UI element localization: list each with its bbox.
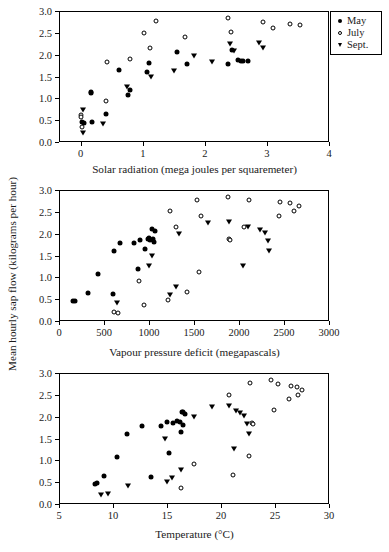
- figure-three-panel-scatter: Mean hourly sap flow (kilograms per hour…: [0, 0, 389, 552]
- x-tick-label: 1: [140, 148, 145, 159]
- y-tick: [55, 299, 59, 300]
- x-tick: [275, 504, 276, 508]
- y-tick-label: 3.0: [19, 368, 52, 379]
- y-tick-label: 1.0: [19, 455, 52, 466]
- x-tick: [194, 321, 195, 325]
- x-axis-label-temperature: Temperature (°C): [0, 528, 389, 540]
- x-axis-label-vapour-pressure-deficit: Vapour pressure deficit (megapascals): [0, 346, 389, 358]
- y-tick-label: 3.0: [19, 6, 52, 17]
- x-tick-label: 0: [78, 148, 83, 159]
- y-tick-label: 0.0: [19, 499, 52, 510]
- filled-circle-icon: [335, 19, 344, 23]
- x-tick: [284, 321, 285, 325]
- y-tick-label: 0.5: [19, 477, 52, 488]
- x-tick: [59, 504, 60, 508]
- y-tick: [55, 142, 59, 143]
- y-tick-label: 2.0: [19, 411, 52, 422]
- legend-item-sept: Sept.: [335, 39, 376, 51]
- legend-label: May: [347, 15, 366, 27]
- filled-triangle-down-icon: [335, 43, 344, 47]
- x-tick-label: 10: [108, 510, 119, 521]
- x-tick-label: 2000: [229, 327, 250, 338]
- legend-item-may: May: [335, 15, 376, 27]
- y-tick: [55, 395, 59, 396]
- x-tick: [329, 504, 330, 508]
- y-tick: [55, 190, 59, 191]
- x-tick: [329, 142, 330, 146]
- x-tick-label: 3000: [319, 327, 340, 338]
- y-tick: [55, 482, 59, 483]
- legend-label: Sept.: [347, 39, 368, 51]
- x-tick-label: 20: [216, 510, 227, 521]
- x-tick: [104, 321, 105, 325]
- y-axis-label-container: Mean hourly sap flow (kilograms per hour…: [0, 0, 20, 552]
- y-tick: [55, 98, 59, 99]
- y-tick: [55, 212, 59, 213]
- plot-area-solar-radiation: [59, 11, 329, 142]
- y-tick-label: 2.0: [19, 49, 52, 60]
- x-tick-label: 30: [324, 510, 335, 521]
- x-tick-label: 1500: [184, 327, 205, 338]
- x-tick: [59, 321, 60, 325]
- x-tick: [143, 142, 144, 146]
- y-tick: [55, 11, 59, 12]
- y-tick: [55, 120, 59, 121]
- y-tick-label: 1.0: [19, 272, 52, 283]
- y-tick: [55, 373, 59, 374]
- y-tick: [55, 256, 59, 257]
- y-tick-label: 2.0: [19, 228, 52, 239]
- x-tick-label: 1000: [139, 327, 160, 338]
- x-tick-label: 0: [56, 327, 61, 338]
- y-tick-label: 2.5: [19, 389, 52, 400]
- y-tick: [55, 439, 59, 440]
- x-tick: [267, 142, 268, 146]
- legend-item-july: July: [335, 27, 376, 39]
- x-tick: [205, 142, 206, 146]
- y-tick-label: 3.0: [19, 185, 52, 196]
- x-tick-label: 15: [162, 510, 173, 521]
- x-tick-label: 500: [96, 327, 112, 338]
- y-tick-label: 1.0: [19, 93, 52, 104]
- x-tick: [113, 504, 114, 508]
- legend-label: July: [347, 27, 365, 39]
- x-tick: [221, 504, 222, 508]
- y-tick-label: 1.5: [19, 250, 52, 261]
- plot-area-temperature: [59, 373, 329, 504]
- x-tick: [149, 321, 150, 325]
- x-tick: [167, 504, 168, 508]
- y-tick-label: 2.5: [19, 27, 52, 38]
- y-tick: [55, 417, 59, 418]
- plot-area-vapour-pressure-deficit: [59, 190, 329, 321]
- x-tick-label: 4: [326, 148, 331, 159]
- x-tick-label: 5: [56, 510, 61, 521]
- y-axis-label: Mean hourly sap flow (kilograms per hour…: [6, 114, 18, 434]
- y-tick-label: 0.5: [19, 294, 52, 305]
- legend: MayJulySept.: [330, 11, 382, 55]
- y-tick: [55, 55, 59, 56]
- y-tick-label: 0.0: [19, 137, 52, 148]
- x-tick-label: 3: [264, 148, 269, 159]
- x-tick: [329, 321, 330, 325]
- y-tick: [55, 234, 59, 235]
- x-tick: [239, 321, 240, 325]
- x-tick-label: 2: [202, 148, 207, 159]
- y-tick: [55, 460, 59, 461]
- y-tick-label: 1.5: [19, 433, 52, 444]
- y-tick-label: 1.5: [19, 71, 52, 82]
- x-tick-label: 2500: [274, 327, 295, 338]
- y-tick-label: 2.5: [19, 206, 52, 217]
- y-tick-label: 0.0: [19, 316, 52, 327]
- x-tick-label: 25: [270, 510, 281, 521]
- y-tick: [55, 77, 59, 78]
- x-axis-label-solar-radiation: Solar radiation (mega joules per squarem…: [0, 163, 389, 175]
- open-circle-icon: [335, 31, 344, 35]
- y-tick: [55, 33, 59, 34]
- y-tick-label: 0.5: [19, 115, 52, 126]
- y-tick: [55, 277, 59, 278]
- x-tick: [81, 142, 82, 146]
